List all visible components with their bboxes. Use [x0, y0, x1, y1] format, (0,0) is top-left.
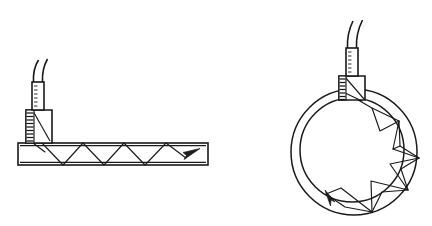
transducer-cable-inner	[347, 21, 353, 48]
technical-diagram	[0, 0, 432, 226]
flat-plate-panel	[18, 59, 208, 165]
transducer-connector-barrel	[32, 82, 44, 110]
transducer-cable-outer	[42, 59, 47, 82]
damping-block-hatching	[340, 79, 346, 100]
pipe-section-panel	[291, 20, 419, 215]
transducer-connector-barrel	[346, 48, 358, 76]
pipe-outer-wall	[291, 89, 417, 215]
ring-reflection-leg-3	[390, 158, 419, 190]
transducer-cable-outer	[356, 20, 362, 48]
test-plate	[18, 143, 208, 165]
pipe-inner-wall	[300, 98, 404, 202]
transducer-cable-inner	[33, 60, 38, 82]
figure-canvas	[0, 0, 432, 226]
